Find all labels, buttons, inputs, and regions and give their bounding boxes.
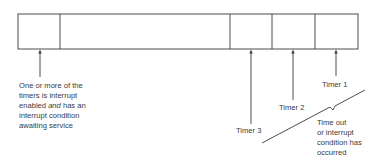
pending-arrow-icon bbox=[38, 50, 41, 78]
timer2-arrow-icon bbox=[291, 50, 294, 101]
pending-line-3-suffix: has an bbox=[61, 101, 86, 110]
timeout-description: Time out or interrupt condition has occu… bbox=[317, 118, 362, 158]
timer2-label: Timer 2 bbox=[279, 103, 304, 113]
pending-description: One or more of the timers is interrupt e… bbox=[19, 81, 86, 131]
timeout-line-3: condition has bbox=[317, 138, 362, 148]
register-box bbox=[18, 14, 358, 49]
pending-line-3-emphasis: and bbox=[48, 101, 61, 110]
pending-line-2: timers is interrupt bbox=[19, 91, 86, 101]
pending-line-3: enabled and has an bbox=[19, 101, 86, 111]
pending-line-1: One or more of the bbox=[19, 81, 86, 91]
timer1-label: Timer 1 bbox=[322, 80, 347, 90]
timeout-line-2: or interrupt bbox=[317, 128, 362, 138]
pending-line-3-prefix: enabled bbox=[19, 101, 48, 110]
pending-line-4: interrupt condition bbox=[19, 111, 86, 121]
timeout-line-4: occurred bbox=[317, 148, 362, 158]
timer3-label: Timer 3 bbox=[236, 126, 261, 136]
pending-line-5: awaiting service bbox=[19, 121, 86, 131]
timer3-arrow-icon bbox=[249, 50, 252, 125]
timer1-arrow-icon bbox=[334, 50, 337, 77]
timeout-line-1: Time out bbox=[317, 118, 362, 128]
